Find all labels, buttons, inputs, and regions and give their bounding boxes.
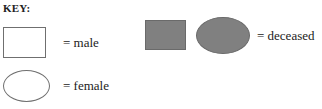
pedigree-key-figure: KEY: = male = female = deceased [0,0,322,109]
key-title: KEY: [3,2,30,15]
female-symbol-swatch [3,70,50,102]
deceased-legend-label: = deceased [257,28,315,43]
deceased-female-symbol-swatch [196,17,250,54]
male-symbol-swatch [3,27,46,58]
female-legend-label: = female [63,78,109,93]
deceased-male-symbol-swatch [145,20,186,50]
male-legend-label: = male [63,35,99,50]
